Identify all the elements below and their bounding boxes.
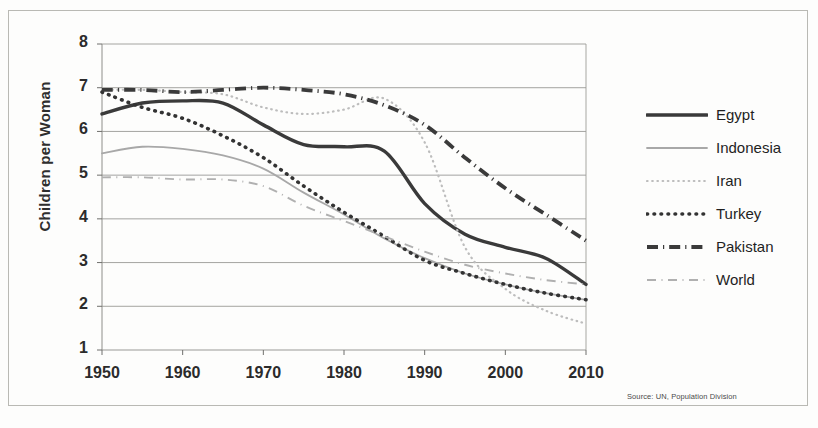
y-tick-label: 5 xyxy=(60,164,88,182)
legend-item-pakistan[interactable]: Pakistan xyxy=(646,230,806,263)
legend-item-iran[interactable]: Iran xyxy=(646,164,806,197)
legend-label: Indonesia xyxy=(716,139,781,156)
legend-swatch-turkey-icon xyxy=(646,208,708,220)
legend-swatch-indonesia-icon xyxy=(646,142,708,154)
y-tick-label: 6 xyxy=(60,120,88,138)
legend-item-egypt[interactable]: Egypt xyxy=(646,98,806,131)
legend-swatch-iran-icon xyxy=(646,175,708,187)
legend-swatch-pakistan-icon xyxy=(646,241,708,253)
legend-item-turkey[interactable]: Turkey xyxy=(646,197,806,230)
x-tick-label: 2000 xyxy=(475,364,535,382)
legend-swatch-egypt-icon xyxy=(646,109,708,121)
legend-label: Iran xyxy=(716,172,742,189)
source-note: Source: UN, Population Division xyxy=(627,392,737,401)
series-line-turkey xyxy=(102,92,586,300)
chart-figure: Children per Woman 87654321 195019601970… xyxy=(0,0,818,428)
legend-swatch-world-icon xyxy=(646,274,708,286)
y-tick-label: 3 xyxy=(60,252,88,270)
x-tick-label: 1960 xyxy=(153,364,213,382)
legend-label: Turkey xyxy=(716,205,761,222)
legend-item-indonesia[interactable]: Indonesia xyxy=(646,131,806,164)
series-line-indonesia xyxy=(102,147,586,300)
x-tick-label: 1980 xyxy=(314,364,374,382)
y-tick-label: 1 xyxy=(60,339,88,357)
gridlines xyxy=(102,44,586,350)
series-line-iran xyxy=(102,90,586,324)
y-tick-label: 7 xyxy=(60,77,88,95)
x-tick-label: 1970 xyxy=(233,364,293,382)
series-line-world xyxy=(102,177,586,284)
series-line-egypt xyxy=(102,100,586,284)
x-tick-label: 2010 xyxy=(556,364,616,382)
legend-label: Egypt xyxy=(716,106,754,123)
legend-item-world[interactable]: World xyxy=(646,263,806,296)
y-tick-label: 8 xyxy=(60,33,88,51)
chart-page: Children per Woman 87654321 195019601970… xyxy=(0,0,818,428)
chart-legend: EgyptIndonesiaIranTurkeyPakistanWorld xyxy=(646,98,806,296)
legend-label: World xyxy=(716,271,755,288)
legend-label: Pakistan xyxy=(716,238,774,255)
x-tick-label: 1950 xyxy=(72,364,132,382)
axis-lines xyxy=(102,44,586,350)
y-tick-label: 2 xyxy=(60,295,88,313)
y-axis-title: Children per Woman xyxy=(36,67,53,247)
y-tick-label: 4 xyxy=(60,208,88,226)
x-tick-label: 1990 xyxy=(395,364,455,382)
data-series-group xyxy=(102,88,586,324)
